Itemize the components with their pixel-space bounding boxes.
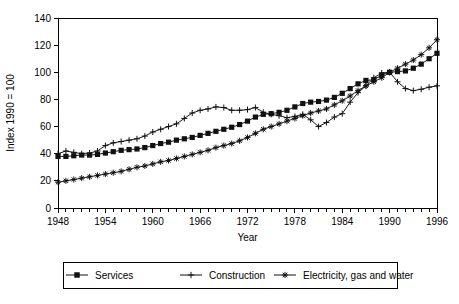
y-tick-label: 120	[34, 40, 51, 51]
marker-filled-square	[134, 146, 139, 151]
marker-filled-square	[119, 148, 124, 153]
x-axis-title: Year	[237, 232, 258, 243]
marker-plus	[110, 140, 116, 146]
marker-plus	[181, 115, 187, 121]
marker-asterisk	[79, 175, 85, 181]
marker-filled-square	[434, 51, 439, 56]
marker-plus	[158, 126, 164, 132]
x-tick-label: 1984	[331, 216, 354, 227]
marker-asterisk	[110, 170, 116, 176]
marker-plus	[197, 107, 203, 113]
y-tick-label: 60	[40, 121, 52, 132]
x-tick-label: 1990	[379, 216, 402, 227]
marker-filled-square	[190, 135, 195, 140]
marker-asterisk	[363, 83, 369, 89]
marker-filled-square	[253, 114, 258, 119]
marker-plus	[205, 106, 211, 112]
marker-asterisk	[323, 106, 329, 112]
marker-filled-square	[205, 131, 210, 136]
marker-asterisk	[276, 121, 282, 127]
marker-asterisk	[268, 124, 274, 130]
marker-filled-square	[229, 125, 234, 130]
marker-plus	[134, 136, 140, 142]
marker-filled-square	[221, 127, 226, 132]
marker-asterisk	[181, 153, 187, 159]
marker-filled-square	[158, 141, 163, 146]
marker-asterisk	[410, 57, 416, 63]
marker-asterisk	[142, 163, 148, 169]
marker-asterisk	[316, 108, 322, 114]
marker-asterisk	[331, 102, 337, 108]
marker-plus	[426, 84, 432, 90]
y-tick-label: 40	[40, 148, 52, 159]
x-tick-label: 1978	[284, 216, 307, 227]
marker-filled-square	[411, 66, 416, 71]
legend-label: Services	[95, 270, 133, 281]
marker-asterisk	[102, 171, 108, 177]
marker-asterisk	[402, 61, 408, 67]
marker-asterisk	[355, 88, 361, 94]
marker-filled-square	[348, 86, 353, 91]
marker-asterisk	[221, 143, 227, 149]
marker-filled-square	[174, 138, 179, 143]
marker-asterisk	[371, 79, 377, 85]
marker-plus	[245, 107, 251, 113]
marker-filled-square	[213, 129, 218, 134]
marker-asterisk	[282, 272, 288, 278]
marker-asterisk	[118, 168, 124, 174]
marker-asterisk	[71, 177, 77, 183]
x-tick-label: 1966	[189, 216, 212, 227]
marker-plus	[173, 121, 179, 127]
plot-frame-border	[58, 18, 437, 208]
marker-filled-square	[284, 108, 289, 113]
marker-plus	[434, 83, 440, 89]
marker-asterisk	[237, 138, 243, 144]
marker-filled-square	[300, 101, 305, 106]
marker-plus	[418, 86, 424, 92]
marker-plus	[229, 107, 235, 113]
marker-asterisk	[252, 130, 258, 136]
marker-plus	[410, 88, 416, 94]
series-line	[58, 72, 437, 153]
y-tick-label: 140	[34, 13, 51, 24]
marker-asterisk	[292, 115, 298, 121]
marker-plus	[331, 114, 337, 120]
marker-asterisk	[87, 174, 93, 180]
marker-filled-square	[74, 272, 79, 277]
marker-filled-square	[355, 81, 360, 86]
marker-filled-square	[363, 78, 368, 83]
marker-asterisk	[126, 166, 132, 172]
marker-filled-square	[419, 62, 424, 67]
marker-filled-square	[150, 143, 155, 148]
marker-filled-square	[332, 95, 337, 100]
marker-plus	[252, 105, 258, 111]
marker-plus	[166, 124, 172, 130]
marker-asterisk	[189, 151, 195, 157]
x-tick-label: 1996	[426, 216, 449, 227]
marker-asterisk	[213, 145, 219, 151]
marker-plus	[150, 129, 156, 135]
marker-plus	[142, 133, 148, 139]
marker-plus	[126, 137, 132, 143]
marker-filled-square	[427, 56, 432, 61]
y-tick-label: 80	[40, 94, 52, 105]
y-tick-label: 0	[45, 203, 51, 214]
marker-asterisk	[339, 98, 345, 104]
marker-asterisk	[134, 164, 140, 170]
marker-filled-square	[316, 99, 321, 104]
marker-plus	[339, 111, 345, 117]
marker-asterisk	[300, 113, 306, 119]
marker-filled-square	[63, 154, 68, 159]
marker-filled-square	[111, 149, 116, 154]
marker-asterisk	[379, 75, 385, 81]
series-line	[58, 53, 437, 156]
marker-filled-square	[142, 145, 147, 150]
marker-plus	[189, 110, 195, 116]
marker-filled-square	[126, 147, 131, 152]
marker-asterisk	[284, 118, 290, 124]
series-construction	[55, 69, 440, 156]
marker-asterisk	[150, 161, 156, 167]
marker-asterisk	[197, 149, 203, 155]
marker-plus	[323, 120, 329, 126]
legend-label: Electricity, gas and water	[303, 270, 414, 281]
